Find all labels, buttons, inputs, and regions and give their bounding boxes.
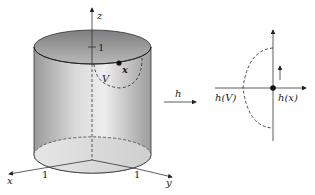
z-tick-label: 1 [98,42,104,53]
map-h: h [164,88,196,102]
hx-label: h(x) [278,92,298,103]
y-axis [138,169,172,177]
y-axis-label: y [165,177,172,188]
point-hx [270,85,276,91]
image-figure: h(V) h(x) [215,30,306,141]
x-axis [9,168,44,174]
z-axis-label: z [96,10,103,21]
point-x-label: x [121,64,129,75]
point-x [116,60,121,65]
x-axis-label: x [7,175,13,186]
map-label: h [175,88,181,99]
hV-label: h(V) [215,92,237,103]
y-tick-label: 1 [134,169,140,180]
diagram-canvas: z 1 x V x 1 1 y h h(V) h(x) [0,0,315,195]
x-tick-label: 1 [42,169,48,180]
cylinder-figure: z 1 x V x 1 1 y [7,8,172,188]
